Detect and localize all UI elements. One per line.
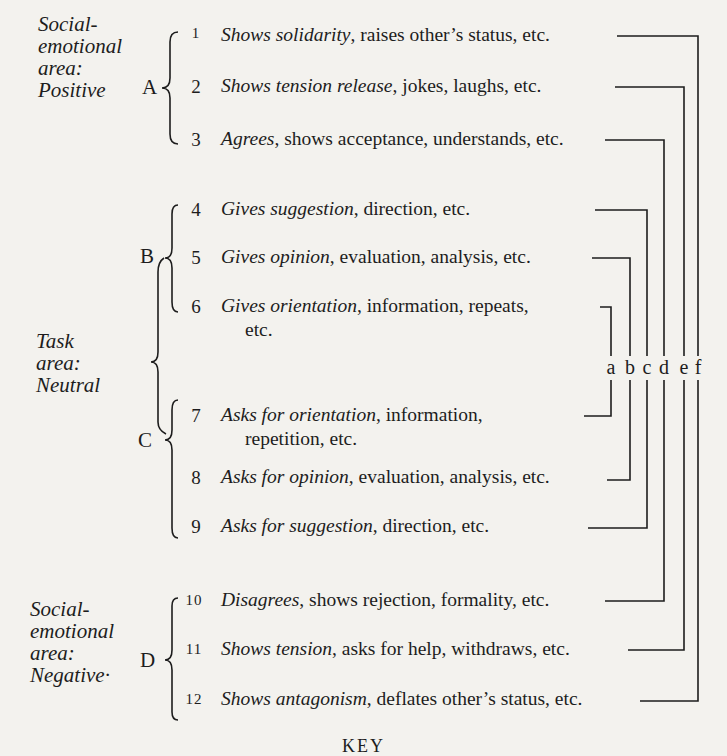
category-number: 11 <box>183 641 205 658</box>
group-letter-c: C <box>138 428 152 453</box>
group-letter-b: B <box>140 244 154 269</box>
line-e-top <box>615 87 684 356</box>
category-row: Asks for suggestion, direction, etc. <box>221 515 489 537</box>
category-row: Disagrees, shows rejection, formality, e… <box>221 589 549 611</box>
category-number: 4 <box>185 199 207 221</box>
line-f-bottom <box>640 380 698 701</box>
category-row: Shows tension release, jokes, laughs, et… <box>221 75 541 97</box>
category-row: Asks for orientation, information, repet… <box>221 404 483 426</box>
line-a-bottom <box>584 380 611 416</box>
category-number: 2 <box>185 76 207 98</box>
category-row: Shows solidarity, raises other’s status,… <box>221 24 550 46</box>
category-row: Shows tension, asks for help, withdraws,… <box>221 638 570 660</box>
brace-d <box>165 598 178 720</box>
line-c-top <box>595 210 647 356</box>
line-a-top <box>600 307 611 356</box>
category-row: Shows antagonism, deflates other’s statu… <box>221 688 582 710</box>
category-number: 1 <box>185 25 207 42</box>
category-number: 9 <box>185 516 207 538</box>
column-letter-a: a <box>604 356 618 379</box>
column-letter-f: f <box>691 356 705 379</box>
brace-a <box>162 32 178 144</box>
category-number: 7 <box>185 405 207 427</box>
area-label-positive: Social- emotional area: Positive <box>38 13 122 101</box>
brace-c <box>165 400 178 538</box>
category-row: Gives suggestion, direction, etc. <box>221 198 470 220</box>
group-letter-a: A <box>142 75 157 100</box>
line-e-bottom <box>628 380 684 650</box>
category-row: Agrees, shows acceptance, understands, e… <box>221 128 564 150</box>
brace-b <box>165 205 178 312</box>
category-number: 12 <box>183 691 205 708</box>
group-letter-d: D <box>140 648 155 673</box>
line-d-bottom <box>605 380 664 601</box>
brace-task <box>151 258 166 434</box>
category-number: 5 <box>185 247 207 269</box>
category-number: 8 <box>185 467 207 489</box>
column-letter-d: d <box>657 356 671 379</box>
category-number: 6 <box>185 296 207 318</box>
category-row: Gives orientation, information, repeats,… <box>221 295 529 317</box>
category-row: Gives opinion, evaluation, analysis, etc… <box>221 246 531 268</box>
column-letter-b: b <box>623 356 637 379</box>
line-d-top <box>605 140 664 356</box>
category-row: Asks for opinion, evaluation, analysis, … <box>221 466 550 488</box>
column-letter-c: c <box>640 356 654 379</box>
category-number: 3 <box>185 129 207 151</box>
category-number: 10 <box>183 592 205 609</box>
area-label-negative: Social- emotional area: Negative· <box>30 598 114 686</box>
area-label-neutral: Task area: Neutral <box>36 330 100 396</box>
key-heading: KEY <box>342 736 385 756</box>
line-f-top <box>617 36 698 356</box>
column-letter-e: e <box>677 356 691 379</box>
line-c-bottom <box>588 380 647 528</box>
